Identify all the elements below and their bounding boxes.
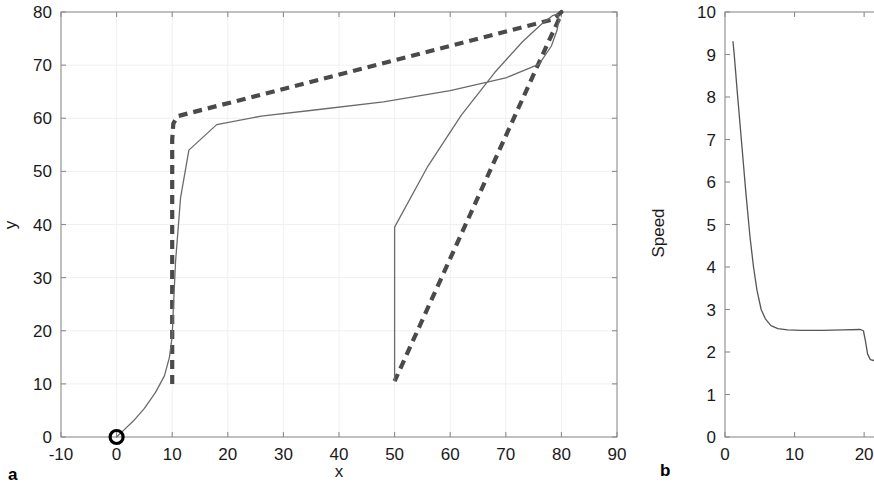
y-tick-label: 0: [43, 429, 52, 446]
y-tick-label: 80: [33, 4, 52, 21]
x-tick-label: -10: [49, 446, 74, 463]
x-tick-label: 0: [720, 446, 729, 463]
x-tick-label: 90: [608, 446, 627, 463]
y-tick-label: 3: [707, 301, 716, 318]
y-tick-label: 70: [33, 57, 52, 74]
y-tick-label: 30: [33, 269, 52, 286]
y-tick-label: 60: [33, 110, 52, 127]
panel-b: 012345678910 01020 Speed b: [640, 0, 869, 486]
y-tick-label: 0: [707, 429, 716, 446]
series-reference-path: [172, 12, 561, 384]
y-tick-label: 1: [707, 386, 716, 403]
y-tick-label: 9: [707, 46, 716, 63]
panel-a: 01020304050607080 -100102030405060708090…: [0, 0, 640, 486]
x-tick-label: 0: [112, 446, 121, 463]
x-tick-label: 20: [218, 446, 237, 463]
y-tick-label: 50: [33, 163, 52, 180]
x-tick-label: 50: [385, 446, 404, 463]
x-tick-label: 10: [785, 446, 804, 463]
x-tick-label: 30: [274, 446, 293, 463]
y-tick-label: 10: [697, 4, 716, 21]
panel-a-y-axis-title: y: [2, 220, 19, 229]
y-tick-label: 10: [33, 375, 52, 392]
series-speed-profile: [733, 42, 874, 362]
y-tick-label: 40: [33, 216, 52, 233]
x-tick-label: 40: [330, 446, 349, 463]
x-tick-label: 10: [163, 446, 182, 463]
panel-a-label: a: [8, 466, 17, 483]
y-tick-label: 2: [707, 344, 716, 361]
y-tick-label: 5: [707, 216, 716, 233]
series-vehicle-trajectory: [117, 14, 560, 437]
panel-a-plot: [0, 0, 640, 486]
y-tick-label: 20: [33, 322, 52, 339]
x-tick-label: 20: [855, 446, 874, 463]
y-tick-label: 4: [707, 259, 716, 276]
x-tick-label: 60: [441, 446, 460, 463]
panel-b-plot: [640, 0, 869, 486]
x-tick-label: 70: [496, 446, 515, 463]
y-tick-label: 7: [707, 131, 716, 148]
x-tick-label: 80: [552, 446, 571, 463]
panel-a-x-axis-title: x: [335, 463, 344, 480]
y-tick-label: 8: [707, 89, 716, 106]
y-tick-label: 6: [707, 174, 716, 191]
panel-b-y-axis-title: Speed: [650, 208, 667, 257]
panel-b-label: b: [660, 462, 670, 479]
